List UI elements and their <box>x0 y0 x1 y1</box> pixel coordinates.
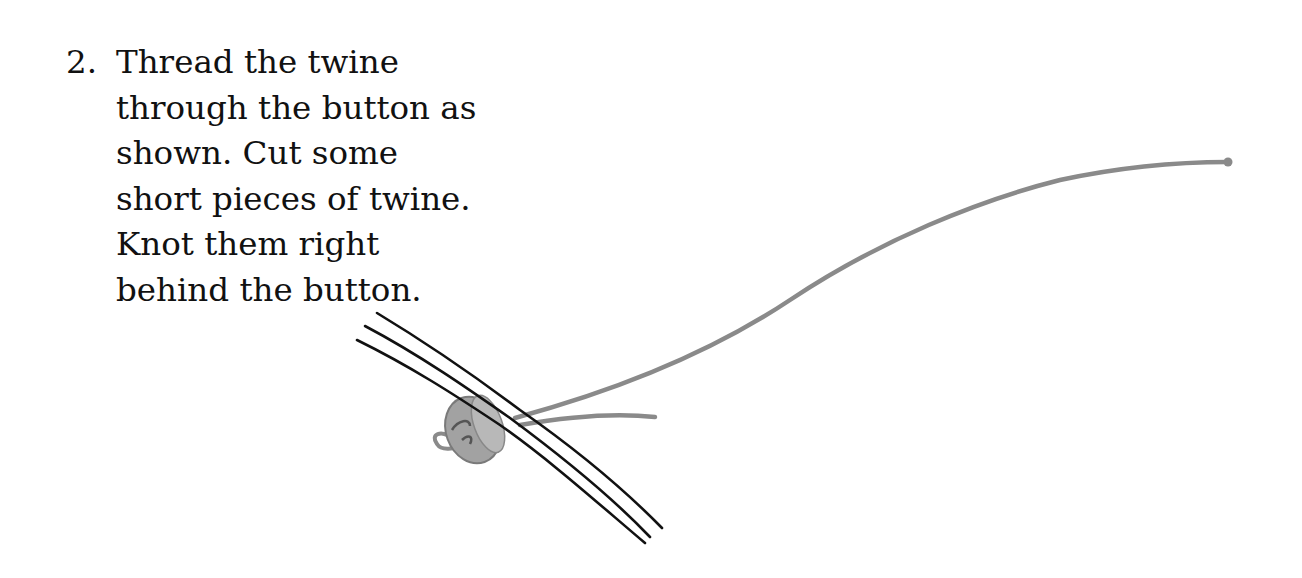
long-twine <box>515 162 1228 418</box>
strands <box>357 313 662 543</box>
button-icon <box>435 389 512 471</box>
button-twine-illustration <box>0 0 1302 578</box>
